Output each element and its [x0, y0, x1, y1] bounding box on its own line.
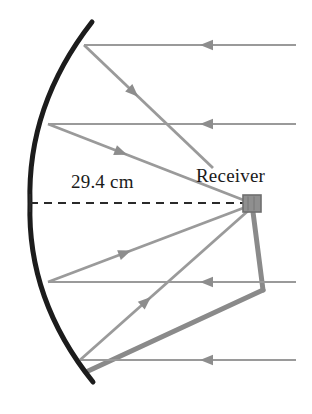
support-structure: [86, 212, 263, 372]
reflected-ray-1: [84, 45, 213, 168]
diagram-canvas: [0, 0, 312, 414]
reflected-ray-3: [48, 207, 246, 282]
support-strut-vertical: [253, 212, 263, 290]
incoming-ray-2-arrowhead: [200, 119, 213, 129]
incoming-ray-4-arrowhead: [200, 355, 213, 365]
incoming-ray-3-arrowhead: [200, 277, 213, 287]
incoming-ray-1-arrowhead: [200, 40, 213, 50]
parabolic-mirror-arc: [30, 22, 93, 382]
receiver-label: Receiver: [196, 166, 265, 185]
reflected-ray-2-arrowhead: [113, 145, 127, 155]
receiver-assembly[interactable]: [243, 195, 261, 212]
reflected-ray-3-arrowhead: [117, 250, 131, 260]
optics-diagram-figure: 29.4 cm Receiver: [0, 0, 312, 414]
receiver-box[interactable]: [243, 195, 261, 212]
focal-length-label: 29.4 cm: [71, 172, 134, 191]
